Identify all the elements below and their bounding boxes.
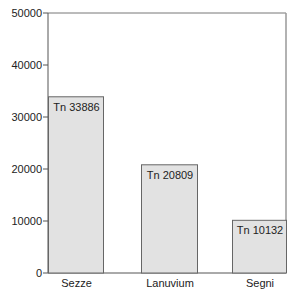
bar-value-label: Tn 10132 <box>237 224 283 236</box>
y-tick-label: 0 <box>36 267 42 279</box>
bars: Tn 33886Tn 20809Tn 10132 <box>49 97 287 273</box>
y-tick-label: 40000 <box>11 59 42 71</box>
y-tick-label: 20000 <box>11 163 42 175</box>
x-category-label: Lanuvium <box>146 277 194 289</box>
bar-value-label: Tn 20809 <box>147 169 193 181</box>
bar-chart: 01000020000300004000050000 Tn 33886Tn 20… <box>0 0 295 293</box>
x-category-label: Segni <box>246 277 274 289</box>
bar-sezze <box>49 97 104 273</box>
y-tick-label: 50000 <box>11 7 42 19</box>
y-axis: 01000020000300004000050000 <box>11 7 48 279</box>
y-tick-label: 30000 <box>11 111 42 123</box>
x-axis: SezzeLanuviumSegni <box>61 277 274 289</box>
y-tick-label: 10000 <box>11 215 42 227</box>
bar-lanuvium <box>142 165 198 273</box>
x-category-label: Sezze <box>61 277 92 289</box>
bar-value-label: Tn 33886 <box>53 101 99 113</box>
